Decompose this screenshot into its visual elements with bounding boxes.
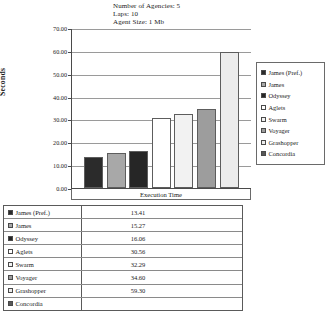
x-axis-label: Execution Time <box>140 191 182 198</box>
chart-plot-area <box>71 29 251 189</box>
table-cell-value: 30.56 <box>82 245 242 257</box>
legend-item: Concordia <box>261 148 321 160</box>
table-row-label: Grashopper <box>16 287 46 294</box>
legend-item: Voyager <box>261 125 321 137</box>
table-row: James15.27 <box>4 219 242 232</box>
legend-swatch-icon <box>261 70 266 75</box>
y-axis-tick <box>68 166 71 167</box>
table-row-label: James <box>16 222 32 229</box>
table-row: Grashopper59.30 <box>4 285 242 298</box>
table-row: Concordia <box>4 298 242 311</box>
chart-bar <box>129 151 148 188</box>
chart-bar <box>220 52 239 188</box>
legend-item-label: Swarm <box>269 116 287 123</box>
y-axis-tick-label: 40.00 <box>33 94 67 101</box>
table-cell-name: James (Pref.) <box>4 206 82 218</box>
chart-bar <box>174 114 193 188</box>
legend-item-label: James (Pref.) <box>269 69 303 76</box>
table-cell-name: Aglets <box>4 245 82 257</box>
legend-item-label: Voyager <box>269 127 290 134</box>
y-axis-tick <box>68 52 71 53</box>
legend-item: Grashopper <box>261 137 321 149</box>
table-cell-name: James <box>4 219 82 231</box>
legend-item: Swarm <box>261 113 321 125</box>
table-cell-name: Voyager <box>4 271 82 283</box>
chart-parameters-header: Number of Agencies: 5 Laps: 10 Agent Siz… <box>113 2 253 27</box>
legend-swatch-icon <box>261 151 266 156</box>
table-row: Aglets30.56 <box>4 245 242 258</box>
chart-bar <box>107 153 126 188</box>
x-axis-label-box: Execution Time <box>71 189 251 200</box>
legend-item-label: Grashopper <box>269 139 299 146</box>
y-axis-tick <box>68 29 71 30</box>
legend-item: Odyssey <box>261 90 321 102</box>
bars-layer <box>78 29 251 188</box>
table-row-label: Swarm <box>16 261 34 268</box>
table-row-label: Aglets <box>16 248 33 255</box>
legend-item: Aglets <box>261 102 321 114</box>
header-line-agencies: Number of Agencies: 5 <box>113 2 253 10</box>
table-cell-value: 15.27 <box>82 219 242 231</box>
chart-legend: James (Pref.)JamesOdysseyAgletsSwarmVoya… <box>256 62 325 165</box>
y-axis-tick-label: 20.00 <box>33 139 67 146</box>
table-swatch-icon <box>8 262 13 267</box>
legend-swatch-icon <box>261 82 266 87</box>
legend-item-label: James <box>269 81 285 88</box>
table-row-label: Odyssey <box>16 235 38 242</box>
legend-item: James (Pref.) <box>261 67 321 79</box>
table-cell-name: Odyssey <box>4 232 82 244</box>
y-axis-tick <box>68 120 71 121</box>
table-cell-name: Swarm <box>4 258 82 270</box>
table-row: Voyager34.60 <box>4 271 242 284</box>
table-swatch-icon <box>8 288 13 293</box>
y-axis-tick <box>68 98 71 99</box>
table-cell-value <box>82 298 242 310</box>
table-cell-name: Concordia <box>4 298 82 310</box>
table-row-label: Voyager <box>16 274 38 281</box>
table-swatch-icon <box>8 275 13 280</box>
y-axis-tick-label: 10.00 <box>33 162 67 169</box>
table-row: Swarm32.29 <box>4 258 242 271</box>
legend-item-label: Aglets <box>269 104 286 111</box>
table-swatch-icon <box>8 301 13 306</box>
legend-swatch-icon <box>261 117 266 122</box>
table-cell-value: 34.60 <box>82 271 242 283</box>
y-axis-tick-label: 30.00 <box>33 116 67 123</box>
table-cell-value: 59.30 <box>82 285 242 297</box>
chart-bar <box>152 118 171 188</box>
table-cell-value: 32.29 <box>82 258 242 270</box>
table-swatch-icon <box>8 249 13 254</box>
table-swatch-icon <box>8 236 13 241</box>
legend-swatch-icon <box>261 93 266 98</box>
legend-swatch-icon <box>261 140 266 145</box>
table-cell-value: 13.41 <box>82 206 242 218</box>
table-row: Odyssey16.06 <box>4 232 242 245</box>
table-swatch-icon <box>8 223 13 228</box>
table-row-label: James (Pref.) <box>16 209 50 216</box>
table-cell-name: Grashopper <box>4 285 82 297</box>
table-row-label: Concordia <box>16 300 43 307</box>
legend-swatch-icon <box>261 105 266 110</box>
table-cell-value: 16.06 <box>82 232 242 244</box>
legend-item-label: Concordia <box>269 150 296 157</box>
chart-bar <box>84 157 103 188</box>
y-axis-tick <box>68 143 71 144</box>
legend-item-label: Odyssey <box>269 92 291 99</box>
y-axis-tick-label: 0.00 <box>33 185 67 192</box>
legend-swatch-icon <box>261 128 266 133</box>
results-table: James (Pref.)13.41James15.27Odyssey16.06… <box>3 205 243 311</box>
chart-bar <box>197 109 216 188</box>
y-axis-title: Seconds <box>0 68 7 96</box>
y-axis-tick-label: 50.00 <box>33 71 67 78</box>
chart-screenshot: Number of Agencies: 5 Laps: 10 Agent Siz… <box>0 0 328 316</box>
table-row: James (Pref.)13.41 <box>4 206 242 219</box>
y-axis-tick <box>68 75 71 76</box>
header-line-laps: Laps: 10 <box>113 10 253 18</box>
header-line-agent-size: Agent Size: 1 Mb <box>113 18 253 26</box>
y-axis-tick-label: 60.00 <box>33 48 67 55</box>
legend-item: James <box>261 79 321 91</box>
table-swatch-icon <box>8 210 13 215</box>
y-axis-tick-label: 70.00 <box>33 25 67 32</box>
